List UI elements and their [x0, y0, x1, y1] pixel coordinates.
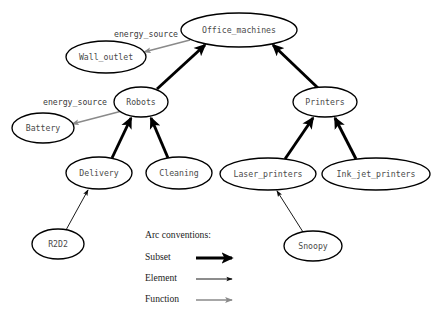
arc-label-office-to-wall-outlet: energy_source	[114, 29, 178, 39]
edge-laser-to-printers	[285, 118, 313, 159]
legend-label-element: Element	[145, 272, 177, 283]
node-delivery[interactable]: Delivery	[66, 157, 132, 189]
node-label-ink_jet_printers: Ink_jet_printers	[337, 169, 416, 179]
node-robots[interactable]: Robots	[114, 87, 168, 117]
edge-r2d2-to-delivery	[66, 190, 88, 230]
legend-title: Arc conventions:	[145, 229, 211, 240]
node-battery[interactable]: Battery	[12, 113, 74, 143]
edge-line-element	[66, 190, 88, 230]
graph-svg: Office_machinesWall_outletRobotsBatteryP…	[0, 0, 440, 311]
node-label-office_machines: Office_machines	[202, 25, 276, 35]
edge-line-subset	[112, 118, 131, 158]
edge-printers-to-office	[273, 45, 318, 88]
edge-line-subset	[151, 118, 168, 158]
diagram-canvas: Office_machinesWall_outletRobotsBatteryP…	[0, 0, 440, 311]
node-printers[interactable]: Printers	[293, 87, 357, 117]
edge-line-function	[144, 40, 190, 52]
nodes-layer: Office_machinesWall_outletRobotsBatteryP…	[12, 13, 430, 261]
node-label-battery: Battery	[26, 123, 61, 133]
edge-cleaning-to-robots	[151, 118, 168, 158]
edge-inkjet-to-printers	[335, 118, 356, 159]
edge-delivery-to-robots	[112, 118, 131, 158]
edge-line-subset	[335, 118, 356, 159]
node-snoopy[interactable]: Snoopy	[284, 231, 342, 261]
edge-office-to-wall-outlet	[144, 40, 190, 52]
node-wall_outlet[interactable]: Wall_outlet	[66, 41, 146, 73]
node-r2d2[interactable]: R2D2	[32, 229, 84, 259]
node-label-wall_outlet: Wall_outlet	[79, 52, 133, 62]
node-office_machines[interactable]: Office_machines	[181, 13, 297, 47]
legend-item-element: Element	[145, 272, 232, 283]
node-label-delivery: Delivery	[79, 168, 119, 178]
node-label-r2d2: R2D2	[48, 239, 68, 249]
node-label-cleaning: Cleaning	[159, 168, 199, 178]
node-label-printers: Printers	[305, 97, 345, 107]
node-label-laser_printers: Laser_printers	[233, 169, 302, 179]
legend-label-function: Function	[145, 293, 179, 304]
edge-robots-to-office	[157, 45, 205, 89]
legend-layer: Arc conventions:SubsetElementFunction	[145, 229, 232, 304]
node-ink_jet_printers[interactable]: Ink_jet_printers	[322, 158, 430, 190]
edge-line-subset	[157, 45, 205, 89]
edge-line-function	[72, 111, 122, 124]
edge-line-subset	[273, 45, 318, 88]
node-cleaning[interactable]: Cleaning	[146, 157, 212, 189]
legend-item-subset: Subset	[145, 251, 232, 262]
node-label-snoopy: Snoopy	[298, 241, 328, 251]
edge-line-element	[277, 191, 303, 232]
node-label-robots: Robots	[126, 97, 156, 107]
legend-item-function: Function	[145, 293, 232, 304]
edge-snoopy-to-laser	[277, 191, 303, 232]
node-laser_printers[interactable]: Laser_printers	[220, 158, 316, 190]
legend-label-subset: Subset	[145, 251, 171, 262]
edge-robots-to-battery	[72, 111, 122, 124]
arc-label-robots-to-battery: energy_source	[43, 97, 107, 107]
edge-line-subset	[285, 118, 313, 159]
